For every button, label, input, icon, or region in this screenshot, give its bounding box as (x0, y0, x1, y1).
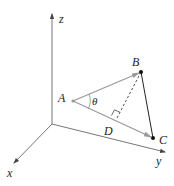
axes (14, 14, 165, 163)
label-b: B (132, 55, 140, 69)
vector-ab (73, 73, 139, 101)
label-y: y (155, 154, 162, 168)
point-c (151, 136, 155, 140)
right-angle-marker (112, 110, 121, 116)
label-theta: θ (92, 95, 98, 107)
point-b (139, 70, 143, 74)
label-x: x (6, 166, 13, 180)
angle-arc (89, 94, 91, 108)
label-a: A (57, 91, 66, 105)
label-d: D (103, 124, 113, 138)
label-c: C (159, 133, 168, 147)
vectors (73, 72, 153, 138)
vector-diagram: z x y A B C D θ (0, 0, 174, 186)
x-axis (14, 124, 52, 163)
label-z: z (58, 12, 64, 26)
point-a (71, 99, 74, 102)
segment-bc (141, 72, 153, 138)
segment-bd-dashed (117, 72, 141, 118)
